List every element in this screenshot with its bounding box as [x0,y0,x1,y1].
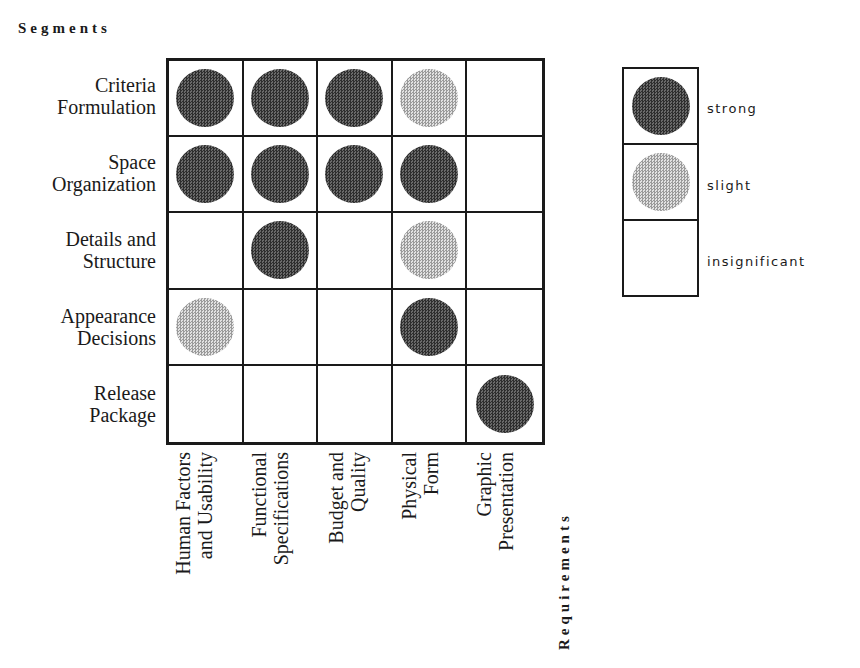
matrix-cell [318,61,393,137]
matrix-cell [393,61,468,137]
column-label-functional-specs: Functional Specifications [248,452,292,598]
matrix-cell [393,290,468,366]
matrix-cell [169,366,244,442]
legend-swatch-slight [624,145,697,221]
column-label-line: Physical [398,452,420,545]
slight-dot-icon [400,69,458,127]
matrix-cell [169,290,244,366]
row-label-criteria-formulation: Criteria Formulation [6,74,156,118]
matrix-cell [244,213,319,289]
row-axis-title: Segments [18,20,111,37]
row-label-line: Organization [6,173,156,195]
strong-dot-icon [476,375,534,433]
legend-label-insignificant: insignificant [707,254,805,269]
strong-dot-icon [400,145,458,203]
matrix-cell [169,61,244,137]
matrix-cell [318,137,393,213]
strong-dot-icon [251,69,309,127]
matrix-cell [244,366,319,442]
strong-dot-icon [400,298,458,356]
matrix-cell [467,213,542,289]
column-label-graphic-presentation: Graphic Presentation [473,452,517,585]
row-label-line: Package [6,404,156,426]
matrix-cell [318,213,393,289]
row-label-line: Release [6,382,156,404]
relationship-matrix [166,58,545,445]
column-label-line: Functional [248,452,270,598]
row-label-line: Structure [6,250,156,272]
row-label-space-organization: Space Organization [6,151,156,195]
matrix-cell [244,61,319,137]
matrix-cell [318,290,393,366]
matrix-cell [467,137,542,213]
matrix-cell [244,137,319,213]
strong-dot-icon [176,145,234,203]
column-label-budget-quality: Budget and Quality [325,452,369,572]
column-label-line: Presentation [495,452,517,585]
column-label-line: Form [420,452,442,545]
strong-dot-icon [176,69,234,127]
column-label-line: Graphic [473,452,495,585]
strong-dot-icon [251,145,309,203]
row-label-line: Decisions [6,327,156,349]
slight-dot-icon [400,221,458,279]
matrix-cell [169,213,244,289]
row-label-line: Space [6,151,156,173]
matrix-cell [169,137,244,213]
matrix-cell [467,366,542,442]
matrix-cell [467,61,542,137]
slight-dot-icon [176,298,234,356]
row-label-line: Details and [6,228,156,250]
column-axis-title: Requirements [556,512,573,650]
matrix-cell [393,213,468,289]
strong-dot-icon [325,145,383,203]
column-label-line: Human Factors [172,452,194,612]
column-label-line: Budget and [325,452,347,572]
strong-dot-icon [325,69,383,127]
row-label-release-package: Release Package [6,382,156,426]
slight-dot-icon [632,153,690,211]
legend-label-strong: strong [707,101,757,116]
strong-dot-icon [251,221,309,279]
legend [622,67,699,297]
row-label-line: Appearance [6,305,156,327]
matrix-cell [318,366,393,442]
row-label-details-structure: Details and Structure [6,228,156,272]
column-label-human-factors: Human Factors and Usability [172,452,216,612]
strong-dot-icon [632,77,690,135]
row-label-appearance-decisions: Appearance Decisions [6,305,156,349]
column-label-physical-form: Physical Form [398,452,442,545]
column-label-line: and Usability [194,452,216,612]
column-label-line: Specifications [270,452,292,598]
legend-label-slight: slight [707,178,752,193]
row-label-line: Formulation [6,96,156,118]
matrix-cell [393,137,468,213]
column-label-line: Quality [347,452,369,572]
legend-swatch-strong [624,69,697,145]
row-label-line: Criteria [6,74,156,96]
matrix-cell [467,290,542,366]
legend-swatch-insignificant [624,221,697,295]
matrix-cell [244,290,319,366]
matrix-cell [393,366,468,442]
